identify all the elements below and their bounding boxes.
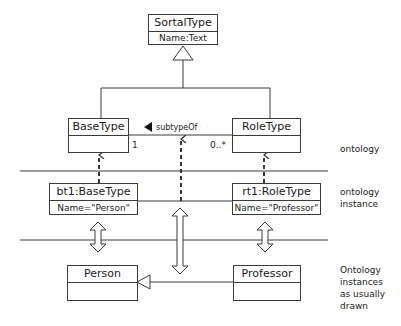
class-name: Person [68, 266, 137, 283]
correspondence-arrow-left [90, 222, 106, 252]
direction-triangle-icon [144, 122, 152, 132]
class-roletype: RoleType [232, 118, 301, 153]
layer-label-ontology-instance: ontology instance [340, 186, 379, 210]
multiplicity-right: 0..* [210, 140, 226, 151]
instance-bt1: bt1:BaseType Name="Person" [49, 183, 138, 215]
layer-label-line: ontology [340, 186, 379, 198]
instance-rt1: rt1:RoleType Name="Professor" [232, 183, 321, 215]
layer-label-line: drawn [340, 300, 385, 312]
layer-label-line: instances [340, 276, 385, 288]
instance-name: rt1:RoleType [233, 184, 320, 201]
layer-label-line: Ontology [340, 264, 385, 276]
class-professor: Professor [233, 265, 301, 301]
drawn-generalization [137, 275, 233, 289]
multiplicity-left: 1 [132, 140, 138, 151]
class-name: RoleType [233, 119, 300, 136]
class-name: BaseType [69, 119, 128, 136]
correspondence-arrow-right [257, 222, 273, 252]
instance-attribute: Name="Professor" [233, 201, 320, 215]
class-sortaltype: SortalType Name:Text [148, 14, 218, 45]
class-name: SortalType [149, 15, 217, 32]
instance-attribute: Name="Person" [50, 201, 137, 215]
class-attribute: Name:Text [149, 32, 217, 45]
layer-label-text: ontology [340, 144, 379, 154]
correspondence-arrow-center [172, 208, 188, 274]
generalization-arrow [101, 46, 270, 118]
association-label: subtypeOf [156, 122, 197, 133]
layer-label-line: instance [340, 198, 379, 210]
layer-label-line: as usually [340, 288, 385, 300]
instance-name: bt1:BaseType [50, 184, 137, 201]
layer-label-ontology: ontology [340, 143, 379, 155]
class-person: Person [67, 265, 138, 301]
layer-label-drawn: Ontology instances as usually drawn [340, 264, 385, 312]
class-name: Professor [234, 266, 300, 283]
class-basetype: BaseType [68, 118, 129, 153]
